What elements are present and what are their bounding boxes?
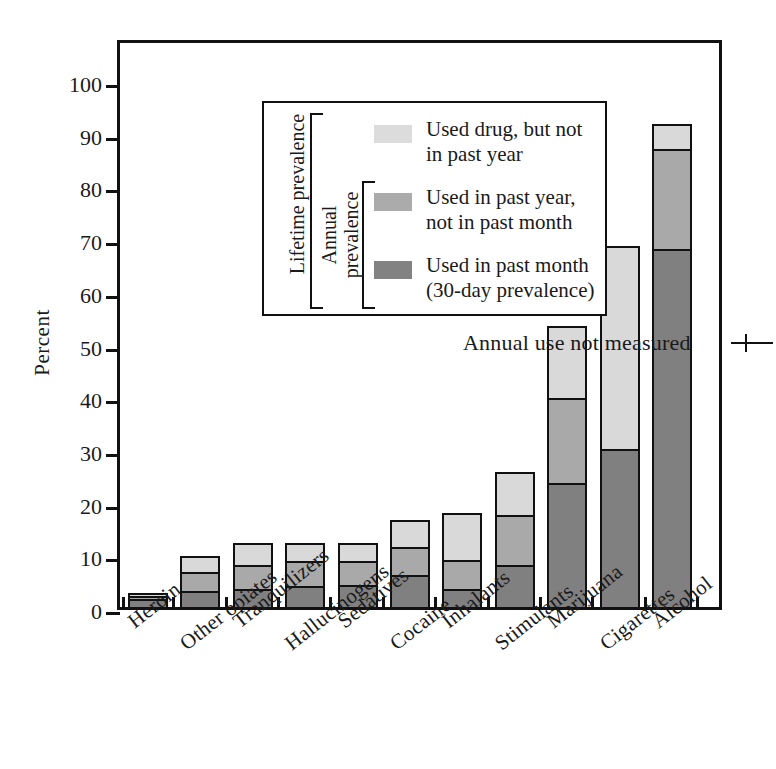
- y-tick-label-0: 0: [42, 599, 102, 625]
- annotation-leader-line: [731, 342, 773, 344]
- y-tick-0: [106, 612, 120, 615]
- y-tick-label-80: 80: [42, 177, 102, 203]
- bar-alcohol[interactable]: [652, 124, 692, 607]
- bar-segment-mid: [180, 572, 220, 590]
- y-tick-label-20: 20: [42, 494, 102, 520]
- bar-segment-light: [180, 556, 220, 572]
- bar-marijuana[interactable]: [547, 326, 587, 607]
- y-tick-20: [106, 507, 120, 510]
- y-tick-label-70: 70: [42, 230, 102, 256]
- y-tick-80: [106, 190, 120, 193]
- y-tick-60: [106, 296, 120, 299]
- bar-segment-light: [442, 513, 482, 560]
- bar-segment-light: [390, 520, 430, 548]
- y-tick-40: [106, 401, 120, 404]
- legend-label-0: Used drug, but not in past year: [426, 117, 582, 167]
- bar-segment-light: [495, 472, 535, 515]
- y-tick-label-40: 40: [42, 388, 102, 414]
- bar-segment-dark: [652, 249, 692, 607]
- chart-canvas: Percent 0102030405060708090100 Lifetime …: [0, 0, 776, 769]
- legend-label-2: Used in past month (30-day prevalence): [426, 253, 594, 303]
- bracket-lifetime-prevalence-label: Lifetime prevalence: [286, 99, 308, 289]
- legend: Lifetime prevalence Annual prevalence Us…: [262, 101, 607, 316]
- y-tick-label-60: 60: [42, 283, 102, 309]
- y-tick-10: [106, 559, 120, 562]
- bar-segment-mid: [547, 398, 587, 483]
- bar-other-opiates[interactable]: [180, 556, 220, 607]
- y-tick-label-100: 100: [42, 72, 102, 98]
- legend-swatch-light-icon: [374, 125, 412, 143]
- y-tick-30: [106, 454, 120, 457]
- y-tick-90: [106, 138, 120, 141]
- legend-swatch-mid-icon: [374, 193, 412, 211]
- bar-segment-light: [338, 543, 378, 560]
- annotation-text: Annual use not measured: [463, 330, 691, 356]
- y-tick-label-90: 90: [42, 125, 102, 151]
- legend-swatch-dark-icon: [374, 261, 412, 279]
- bar-segment-light: [233, 543, 273, 565]
- legend-item-used-not-past-year: Used drug, but not in past year: [374, 117, 582, 167]
- y-tick-label-10: 10: [42, 546, 102, 572]
- y-tick-label-50: 50: [42, 336, 102, 362]
- legend-item-used-past-year-not-month: Used in past year, not in past month: [374, 185, 576, 235]
- legend-item-used-past-month: Used in past month (30-day prevalence): [374, 253, 594, 303]
- y-tick-100: [106, 85, 120, 88]
- bracket-annual-prevalence-label: Annual prevalence: [318, 160, 362, 310]
- annotation-leader-tick: [745, 334, 747, 352]
- x-tick-start: [122, 597, 125, 607]
- bar-segment-light: [652, 124, 692, 149]
- y-tick-label-30: 30: [42, 441, 102, 467]
- bar-segment-mid: [495, 515, 535, 566]
- bar-segment-mid: [652, 149, 692, 250]
- y-tick-50: [106, 349, 120, 352]
- legend-label-1: Used in past year, not in past month: [426, 185, 576, 235]
- plot-area: 0102030405060708090100 Lifetime prevalen…: [117, 40, 722, 610]
- y-tick-70: [106, 243, 120, 246]
